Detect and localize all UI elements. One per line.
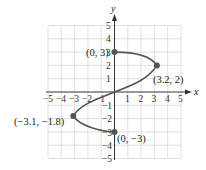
svg-text:1: 1 [125,94,130,104]
x-axis-arrow-icon [185,90,192,95]
y-axis-arrow-icon [112,14,117,21]
svg-text:4: 4 [165,94,170,104]
chart: x y −5 −4 −3 −2 −1 1 2 3 4 5 5 4 3 2 1 −… [0,0,206,170]
svg-text:−2: −2 [102,114,112,124]
svg-text:2: 2 [139,94,144,104]
label-point-0-neg3: (0, −3) [117,133,146,145]
point-3.2-2 [154,62,160,68]
svg-text:−5: −5 [43,94,53,104]
svg-text:−5: −5 [102,154,112,164]
svg-text:5: 5 [178,94,183,104]
svg-text:−1: −1 [102,101,112,111]
svg-text:4: 4 [106,34,111,44]
svg-text:−3: −3 [69,94,79,104]
point-0-3 [112,49,118,55]
label-point-3.2-2: (3.2, 2) [153,74,184,86]
label-point-0-3: (0, 3) [86,47,109,59]
svg-text:1: 1 [106,74,111,84]
label-point-neg3.1-neg1.8: (−3.1, −1.8) [14,116,65,128]
point-neg3.1-neg1.8 [70,113,76,119]
x-tick-labels: −5 −4 −3 −2 −1 1 2 3 4 5 [43,94,183,104]
x-axis-label: x [193,86,199,97]
svg-text:−4: −4 [56,94,66,104]
svg-text:5: 5 [106,21,111,31]
svg-text:3: 3 [152,94,157,104]
y-axis-label: y [110,3,116,14]
svg-text:−4: −4 [102,141,112,151]
svg-text:2: 2 [106,61,111,71]
